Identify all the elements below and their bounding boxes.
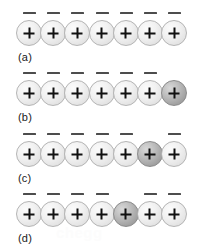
- plus-charge-icon: [96, 88, 107, 99]
- plus-charge-icon: [72, 88, 83, 99]
- ion-circle: [113, 80, 139, 106]
- electron-dash-icon: [47, 12, 60, 14]
- row-label: (d): [18, 231, 32, 245]
- ion-circle: [161, 141, 187, 167]
- electron-dash-icon: [144, 193, 157, 195]
- plus-charge-icon: [120, 149, 131, 160]
- ion-chain: [16, 68, 188, 110]
- plus-charge-icon: [96, 209, 107, 220]
- electron-dash-icon: [144, 72, 157, 74]
- plus-charge-icon: [144, 209, 155, 220]
- ion-circle: [16, 80, 42, 106]
- ion-circle: [89, 141, 115, 167]
- plus-charge-icon: [48, 209, 59, 220]
- electron-dash-icon: [168, 133, 181, 135]
- ion-circle: [40, 80, 66, 106]
- electron-dash-icon: [23, 12, 36, 14]
- row-label: (b): [18, 110, 32, 124]
- plus-charge-icon: [169, 28, 180, 39]
- ion-circle: [40, 20, 66, 46]
- ion-site: [16, 68, 43, 110]
- plus-charge-icon: [24, 209, 35, 220]
- ion-site: [161, 68, 188, 110]
- electron-dash-icon: [23, 193, 36, 195]
- ion-circle: [64, 80, 90, 106]
- electron-dash-icon: [120, 12, 133, 14]
- watermark-text: chegg: [56, 224, 196, 242]
- plus-charge-icon: [96, 28, 107, 39]
- ion-site: [40, 68, 67, 110]
- plus-charge-icon: [144, 149, 155, 160]
- plus-charge-icon: [48, 88, 59, 99]
- ion-circle: [113, 141, 139, 167]
- ion-row-b: (b): [0, 68, 204, 126]
- row-label: (c): [18, 171, 31, 185]
- ion-site: [40, 8, 67, 50]
- electron-dash-icon: [120, 72, 133, 74]
- plus-charge-icon: [120, 209, 131, 220]
- ion-site: [40, 129, 67, 171]
- ion-site: [113, 68, 140, 110]
- ion-circle: [89, 80, 115, 106]
- ion-circle: [137, 20, 163, 46]
- ion-circle: [89, 20, 115, 46]
- electron-dash-icon: [96, 72, 109, 74]
- ion-site: [64, 68, 91, 110]
- ion-site: [64, 129, 91, 171]
- electron-dash-icon: [144, 12, 157, 14]
- ion-chain: [16, 8, 188, 50]
- ion-row-a: (a): [0, 8, 204, 66]
- plus-charge-icon: [169, 209, 180, 220]
- ion-site: [89, 68, 116, 110]
- plus-charge-icon: [24, 88, 35, 99]
- plus-charge-icon: [24, 28, 35, 39]
- electron-dash-icon: [47, 193, 60, 195]
- ion-circle: [113, 20, 139, 46]
- ion-site: [16, 8, 43, 50]
- ion-circle-shaded: [161, 80, 187, 106]
- plus-charge-icon: [72, 149, 83, 160]
- plus-charge-icon: [48, 28, 59, 39]
- plus-charge-icon: [24, 149, 35, 160]
- electron-dash-icon: [47, 72, 60, 74]
- electron-dash-icon: [71, 72, 84, 74]
- plus-charge-icon: [72, 28, 83, 39]
- electron-dash-icon: [168, 193, 181, 195]
- electron-dash-icon: [120, 133, 133, 135]
- plus-charge-icon: [48, 149, 59, 160]
- row-label: (a): [18, 50, 32, 64]
- ion-circle: [64, 141, 90, 167]
- ion-chain: [16, 129, 188, 171]
- ion-circle: [137, 80, 163, 106]
- electron-dash-icon: [23, 133, 36, 135]
- ion-circle: [40, 141, 66, 167]
- plus-charge-icon: [169, 149, 180, 160]
- electron-dash-icon: [168, 12, 181, 14]
- electron-dash-icon: [71, 133, 84, 135]
- plus-charge-icon: [144, 28, 155, 39]
- ion-chain-figure: (a)(b)(c)(d) chegg: [0, 0, 204, 247]
- ion-circle: [16, 20, 42, 46]
- ion-circle: [16, 201, 42, 227]
- ion-site: [161, 8, 188, 50]
- plus-charge-icon: [144, 88, 155, 99]
- electron-dash-icon: [96, 133, 109, 135]
- plus-charge-icon: [72, 209, 83, 220]
- electron-dash-icon: [71, 193, 84, 195]
- ion-circle: [16, 141, 42, 167]
- electron-dash-icon: [47, 133, 60, 135]
- ion-circle-shaded: [137, 141, 163, 167]
- ion-site: [113, 129, 140, 171]
- ion-site: [137, 129, 164, 171]
- ion-site: [161, 129, 188, 171]
- ion-site: [137, 8, 164, 50]
- electron-dash-icon: [96, 193, 109, 195]
- ion-circle: [161, 20, 187, 46]
- plus-charge-icon: [120, 28, 131, 39]
- plus-charge-icon: [120, 88, 131, 99]
- ion-site: [89, 8, 116, 50]
- electron-dash-icon: [23, 72, 36, 74]
- ion-site: [16, 189, 43, 231]
- ion-circle: [64, 20, 90, 46]
- plus-charge-icon: [96, 149, 107, 160]
